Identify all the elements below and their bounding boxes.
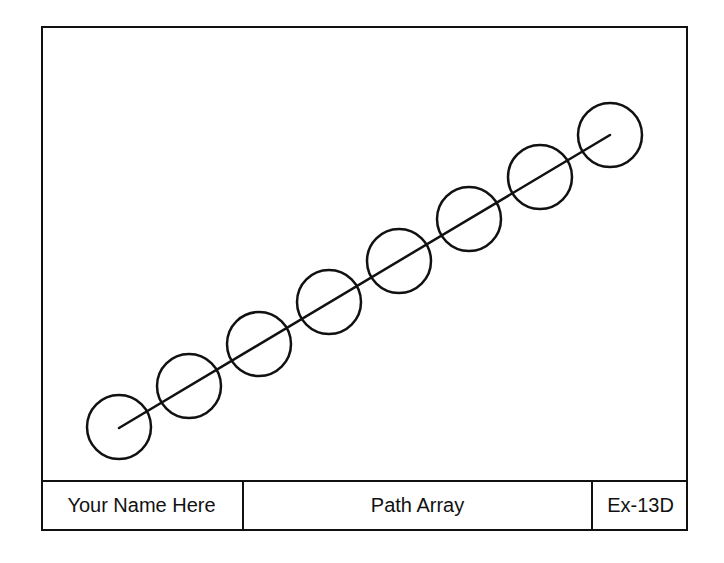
title-block: Your Name Here Path Array Ex-13D — [41, 480, 688, 531]
title-block-name: Your Name Here — [41, 482, 244, 531]
title-block-title: Path Array — [244, 482, 593, 531]
title-block-number: Ex-13D — [593, 482, 688, 531]
path-line — [119, 135, 610, 428]
drawing-canvas — [0, 0, 724, 563]
